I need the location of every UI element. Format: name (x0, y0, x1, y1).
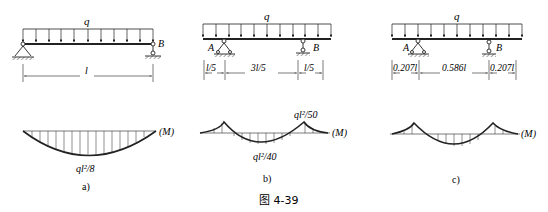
support-label-a: A (207, 42, 215, 53)
support-label-a: A (402, 42, 410, 53)
distributed-load-arrows (392, 24, 522, 37)
moment-axis-label: (M) (159, 126, 175, 138)
dimension-label: l (85, 65, 88, 76)
distributed-load-arrows (203, 24, 331, 37)
moment-value-support: ql²/50 (294, 109, 318, 120)
moment-curve (200, 122, 328, 142)
panel-c-beam-diagram: q A B (392, 10, 522, 80)
moment-value-midspan: ql²/8 (76, 163, 95, 174)
moment-axis-label: (M) (332, 127, 348, 139)
subfigure-label: c) (452, 174, 460, 186)
subfigure-label: b) (263, 173, 271, 185)
load-label-q: q (264, 10, 270, 22)
pinned-support-icon (408, 39, 429, 57)
panel-b-beam-diagram: q A B (203, 10, 331, 80)
load-label-q: q (84, 15, 90, 27)
moment-value-midspan: ql²/40 (253, 151, 277, 162)
dimension-label-middle: 0.586l (442, 63, 466, 73)
pinned-support-icon (214, 39, 235, 57)
subfigure-label: a) (82, 181, 90, 193)
dimension-label-right: l/5 (304, 63, 314, 73)
support-label-b: B (158, 38, 164, 49)
panel-a-beam-diagram: q B l (12, 15, 164, 82)
dimension-line (23, 64, 153, 82)
panel-a-moment-diagram: (M) ql²/8 a) (23, 126, 175, 193)
support-label-b: B (313, 42, 319, 53)
roller-support-icon (482, 40, 496, 57)
figure-caption: 图 4-39 (259, 194, 298, 207)
dimension-label-left: l/5 (206, 63, 216, 73)
load-label-q: q (454, 10, 460, 22)
panel-b-moment-diagram: (M) ql²/50 ql²/40 b) (200, 109, 348, 185)
moment-axis-label: (M) (521, 128, 537, 140)
roller-support-icon (296, 39, 310, 56)
moment-curve (392, 123, 518, 144)
dimension-label-left: 0.207l (393, 63, 417, 73)
figure-canvas: q B l (0, 0, 548, 212)
support-label-b: B (496, 42, 502, 53)
dimension-label-right: 0.207l (490, 63, 514, 73)
distributed-load-arrows (23, 29, 153, 42)
panel-c-moment-diagram: (M) c) (390, 123, 537, 186)
dimension-label-middle: 3l/5 (250, 63, 266, 73)
